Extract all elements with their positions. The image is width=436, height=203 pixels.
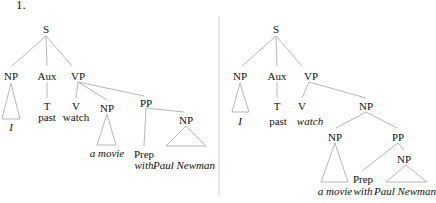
node-left-amovie: a movie <box>90 147 125 159</box>
node-right-pp: PP <box>392 131 404 143</box>
tree-edge <box>276 36 277 66</box>
node-right-np2: NP <box>359 100 373 112</box>
tree-edge <box>362 143 398 171</box>
tree-left <box>2 36 206 146</box>
node-left-pp: PP <box>140 97 152 109</box>
tree-edge <box>309 82 366 98</box>
node-right-np3: NP <box>328 131 342 143</box>
node-left-watch: watch <box>63 111 89 123</box>
constituent-triangle <box>321 143 348 182</box>
tree-edge <box>46 36 47 66</box>
node-left-i: I <box>9 121 13 133</box>
node-right-paul: Paul Newman <box>374 185 436 197</box>
tree-edge <box>78 82 144 96</box>
node-left-np1: NP <box>4 70 18 82</box>
node-left-np3: NP <box>179 114 193 126</box>
tree-edge <box>144 108 146 146</box>
node-right-i: I <box>238 115 242 127</box>
node-right-s: S <box>273 23 279 35</box>
tree-edge <box>366 112 397 128</box>
tree-edge <box>76 82 78 98</box>
node-right-with: with <box>354 185 373 197</box>
tree-edge <box>336 112 366 128</box>
node-left-paul: Paul Newman <box>153 159 215 171</box>
tree-edge <box>398 143 404 150</box>
node-right-np1: NP <box>233 70 247 82</box>
tree-edge <box>302 82 309 98</box>
tree-edge <box>12 36 46 66</box>
node-right-t: T <box>274 100 281 112</box>
node-right-amovie: a movie <box>318 185 353 197</box>
node-left-vp: VP <box>71 70 85 82</box>
node-left-with: with <box>135 159 154 171</box>
node-right-aux: Aux <box>268 70 287 82</box>
node-right-vp: VP <box>304 70 318 82</box>
constituent-triangle <box>2 83 20 119</box>
node-left-np2: NP <box>100 102 114 114</box>
constituent-triangle <box>232 83 249 112</box>
constituent-triangle <box>166 126 206 146</box>
node-right-prep: Prep <box>353 173 373 185</box>
node-right-past: past <box>269 115 287 127</box>
constituent-triangle <box>97 114 116 145</box>
node-right-np4: NP <box>397 153 411 165</box>
tree-edge <box>276 36 302 66</box>
tree-edge <box>46 36 72 66</box>
constituent-triangle <box>386 165 427 182</box>
node-left-s: S <box>43 23 49 35</box>
node-left-aux: Aux <box>38 70 57 82</box>
tree-edge <box>242 36 276 66</box>
node-right-watch: watch <box>297 115 323 127</box>
node-left-past: past <box>38 111 56 123</box>
node-right-v: V <box>298 100 306 112</box>
